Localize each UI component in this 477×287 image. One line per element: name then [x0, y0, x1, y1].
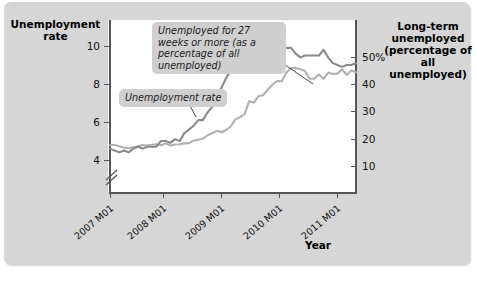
callout-long-term-unemployed: Unemployed for 27 weeks or more (as a pe… [152, 22, 286, 74]
callout-unemployment-rate: Unemployment rate [119, 89, 227, 107]
series-long-term-unemployed [110, 68, 356, 148]
figure-container: 10 8 6 4 50% 40 30 20 10 2007 M01 2008 M… [0, 0, 477, 287]
